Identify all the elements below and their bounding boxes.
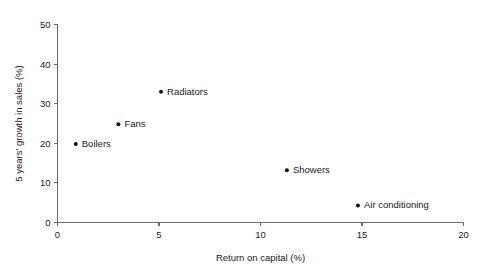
- x-tick-label: 10: [255, 229, 266, 240]
- data-point-label: Showers: [293, 164, 330, 175]
- data-point-label: Boilers: [82, 138, 111, 149]
- data-point-marker[interactable]: [159, 90, 163, 94]
- y-axis: 01020304050 5 years' growth in sales (%): [13, 19, 58, 228]
- x-tick-group: 05101520: [55, 223, 469, 240]
- x-tick-label: 15: [357, 229, 368, 240]
- data-point[interactable]: Radiators: [159, 86, 208, 97]
- y-tick-label: 10: [40, 177, 51, 188]
- x-tick-label: 20: [458, 229, 469, 240]
- y-tick-label: 20: [40, 138, 51, 149]
- data-point-marker[interactable]: [116, 122, 120, 126]
- x-axis-title: Return on capital (%): [216, 252, 305, 263]
- data-point-marker[interactable]: [356, 203, 360, 207]
- scatter-chart: 01020304050 5 years' growth in sales (%)…: [0, 0, 504, 277]
- data-point[interactable]: Air conditioning: [356, 199, 429, 210]
- chart-canvas: 01020304050 5 years' growth in sales (%)…: [0, 0, 504, 277]
- y-tick-label: 30: [40, 98, 51, 109]
- data-point[interactable]: Fans: [116, 118, 145, 129]
- data-point-marker[interactable]: [74, 142, 78, 146]
- data-point-label: Air conditioning: [364, 199, 429, 210]
- y-tick-group: 01020304050: [40, 19, 58, 228]
- x-tick-label: 0: [55, 229, 60, 240]
- data-point[interactable]: Showers: [285, 164, 330, 175]
- x-tick-label: 5: [156, 229, 161, 240]
- y-tick-label: 40: [40, 59, 51, 70]
- data-point-label: Fans: [124, 118, 145, 129]
- y-axis-title: 5 years' growth in sales (%): [13, 65, 24, 181]
- data-point[interactable]: Boilers: [74, 138, 111, 149]
- data-point-label: Radiators: [167, 86, 208, 97]
- y-tick-label: 50: [40, 19, 51, 30]
- x-axis: 05101520 Return on capital (%): [55, 223, 469, 263]
- data-point-marker[interactable]: [285, 168, 289, 172]
- y-tick-label: 0: [45, 217, 50, 228]
- data-point-group: BoilersFansRadiatorsShowersAir condition…: [74, 86, 429, 211]
